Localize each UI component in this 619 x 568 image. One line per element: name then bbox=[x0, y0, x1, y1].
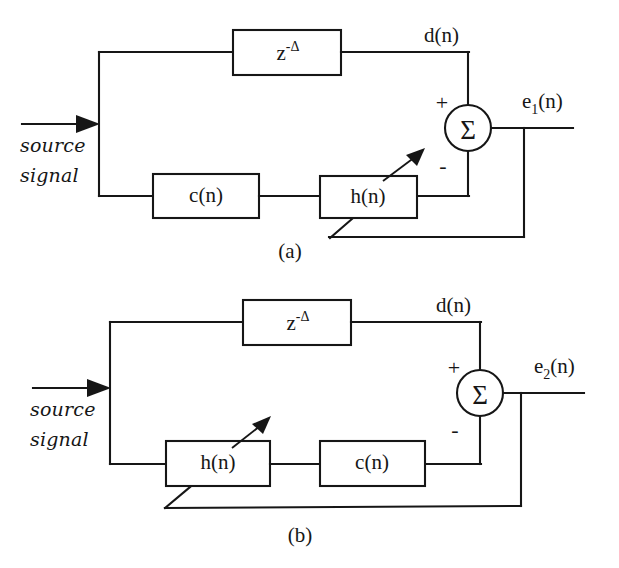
caption-b: (b) bbox=[288, 523, 313, 547]
block-h-label-a: h(n) bbox=[351, 184, 386, 208]
source-signal-line2-a: signal bbox=[20, 164, 79, 186]
summer-minus-sign-b: - bbox=[451, 417, 458, 442]
output-label-subscript-b: 2 bbox=[543, 367, 550, 382]
input-arrow-b bbox=[33, 379, 111, 397]
summer-plus-sign-a: + bbox=[436, 90, 448, 115]
signal-label-dn-a: d(n) bbox=[424, 23, 459, 47]
caption-a: (a) bbox=[278, 239, 301, 263]
source-signal-line1-b: source bbox=[30, 398, 96, 420]
delay-block-exponent-a: -Δ bbox=[286, 39, 300, 54]
output-label-e2-b: e2(n) bbox=[534, 354, 575, 382]
source-signal-line2-b: signal bbox=[30, 428, 89, 450]
signal-label-dn-b: d(n) bbox=[436, 293, 471, 317]
output-label-suffix-b: (n) bbox=[550, 354, 575, 378]
summer-plus-sign-b: + bbox=[448, 355, 460, 380]
wire-error-feedback-diagonal-b bbox=[165, 487, 190, 508]
delay-block-base-a: z bbox=[277, 41, 286, 65]
output-label-e1-a: e1(n) bbox=[522, 89, 563, 117]
output-label-base-b: e bbox=[534, 354, 543, 378]
block-h-label-b: h(n) bbox=[201, 450, 236, 474]
summer-minus-sign-a: - bbox=[439, 153, 446, 178]
output-label-suffix-a: (n) bbox=[538, 89, 563, 113]
block-diagram-panel-b: source signal z-Δ d(n) Σ + - e2(n) bbox=[0, 284, 619, 568]
wire-error-feedback-diagonal-a bbox=[330, 219, 352, 238]
summer-sigma-symbol-a: Σ bbox=[460, 115, 476, 145]
block-diagram-panel-a: source signal z-Δ d(n) Σ + - e1(n) bbox=[0, 0, 619, 284]
input-arrow-a bbox=[22, 115, 100, 133]
figure-root: source signal z-Δ d(n) Σ + - e1(n) bbox=[0, 0, 619, 568]
wire-error-feedback-horizontal-b bbox=[165, 506, 521, 508]
summer-sigma-symbol-b: Σ bbox=[472, 380, 488, 410]
output-label-subscript-a: 1 bbox=[531, 102, 538, 117]
delay-block-exponent-b: -Δ bbox=[296, 309, 310, 324]
source-signal-line1-a: source bbox=[20, 134, 86, 156]
block-c-label-a: c(n) bbox=[189, 183, 223, 207]
block-c-label-b: c(n) bbox=[355, 450, 389, 474]
output-label-base-a: e bbox=[522, 89, 531, 113]
delay-block-base-b: z bbox=[287, 311, 296, 335]
